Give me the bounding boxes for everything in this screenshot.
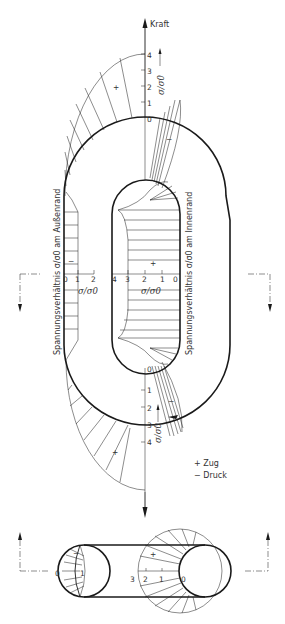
outer-tick-1: 1 — [75, 275, 80, 284]
top-tick-2: 2 — [147, 83, 152, 92]
legend-compression: − Druck — [194, 471, 227, 480]
inner-tick-4: 4 — [112, 275, 117, 284]
outer-tick-2: 2 — [91, 275, 96, 284]
top-inner-compression-fan — [150, 100, 181, 188]
bottom-ratio-label: σ/σ0 — [153, 423, 163, 443]
cross-plus-sign: + — [150, 550, 156, 559]
cross-right-tick-3: 3 — [130, 575, 135, 584]
inner-ratio-label: σ/σ0 — [141, 286, 161, 296]
top-ratio-arrow — [159, 48, 162, 66]
inner-tick-2: 2 — [142, 275, 147, 284]
force-label: Kraft — [150, 20, 169, 29]
inner-side-stress-zone — [112, 182, 180, 365]
section-cut-left — [18, 274, 40, 312]
section-arrow-down-icon — [268, 304, 272, 312]
inner-plus-sign: + — [150, 259, 156, 268]
cross-right-tick-2: 2 — [143, 575, 148, 584]
top-ratio-label: σ/σ0 — [156, 75, 166, 95]
cross-minus-sign: − — [73, 549, 79, 558]
bottom-ratio-arrow — [157, 404, 160, 422]
bottom-section-cut-right — [245, 532, 270, 571]
top-tick-0: 0 — [147, 115, 152, 124]
force-arrow-up-icon — [143, 18, 148, 28]
top-plus-sign: + — [113, 83, 119, 92]
cross-right-tick-1: 1 — [159, 575, 164, 584]
legend-tension: + Zug — [194, 459, 219, 468]
section-arrow-down-icon — [18, 304, 22, 312]
link-outer-contour — [64, 117, 230, 425]
bottom-minus-sign: − — [168, 397, 174, 406]
cross-left-tick-0: 0 — [55, 569, 60, 578]
inner-tick-1: 1 — [160, 275, 165, 284]
bottom-tick-3: 3 — [147, 421, 152, 430]
cross-right-tick-0: 0 — [181, 575, 186, 584]
top-tick-1: 1 — [147, 99, 152, 108]
outer-tick-0: 0 — [63, 275, 68, 284]
inner-tick-0: 0 — [173, 275, 178, 284]
top-tick-3: 3 — [147, 67, 152, 76]
force-arrow-down-icon — [143, 507, 148, 518]
bottom-section-cut-left — [18, 532, 50, 571]
right-wire-section — [179, 545, 231, 597]
outer-minus-sign: − — [68, 257, 74, 266]
inner-tick-3: 3 — [125, 275, 130, 284]
bottom-axis-ticks — [141, 390, 145, 442]
outer-edge-label: Spannungsverhältnis σ/σ0 am Außenrand — [53, 189, 62, 355]
top-axis-ticks — [141, 54, 145, 102]
top-minus-sign: − — [166, 135, 172, 144]
outer-ratio-label: σ/σ0 — [78, 286, 98, 296]
chain-link-diagram: Kraft + 4 3 2 1 0 σ/σ0 − — [0, 0, 285, 624]
bottom-plus-sign: + — [112, 448, 118, 457]
section-cut-right — [248, 274, 272, 312]
top-tick-4: 4 — [147, 51, 152, 60]
bottom-tick-4: 4 — [147, 438, 152, 447]
inner-edge-label: Spannungsverhältnis σ/σ0 am Innenrand — [185, 192, 194, 355]
section-arrow-up-icon — [18, 532, 22, 540]
top-outer-stress-zone — [65, 54, 145, 196]
cross-left-tick-1: 1 — [80, 569, 85, 578]
bottom-outer-stress-zone — [66, 360, 145, 490]
ratio-arrow-up-icon — [159, 48, 162, 54]
bottom-tick-2: 2 — [147, 404, 152, 413]
bottom-tick-0: 0 — [147, 365, 152, 374]
ratio-arrow-up-icon — [157, 404, 160, 410]
section-arrow-up-icon — [266, 532, 270, 540]
bottom-tick-1: 1 — [147, 386, 152, 395]
